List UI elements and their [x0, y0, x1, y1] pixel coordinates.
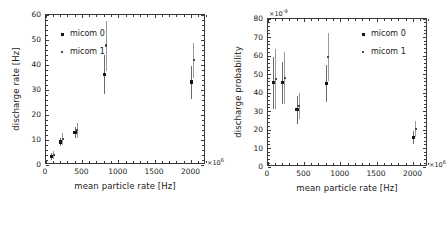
ytick-minor	[268, 41, 270, 42]
ytick-minor	[424, 126, 426, 127]
ytick-minor	[424, 141, 426, 142]
ytick-minor	[202, 135, 204, 136]
ytick-major	[423, 111, 426, 112]
ytick-minor	[202, 105, 204, 106]
ytick-major	[268, 148, 271, 149]
ytick-label: 20	[19, 110, 41, 119]
ytick-minor	[268, 159, 270, 160]
ytick-minor	[46, 30, 48, 31]
x-axis-label: mean particle rate [Hz]	[296, 183, 397, 193]
ytick-minor	[424, 122, 426, 123]
xtick-minor	[333, 163, 334, 165]
xtick-minor	[420, 163, 421, 165]
xtick-minor	[297, 19, 298, 21]
xtick-minor	[111, 15, 112, 17]
ytick-major	[201, 165, 204, 166]
ytick-minor	[46, 105, 48, 106]
xtick-minor	[46, 161, 47, 163]
xtick-minor	[398, 163, 399, 165]
ytick-minor	[202, 100, 204, 101]
ytick-minor	[46, 95, 48, 96]
ytick-minor	[268, 81, 270, 82]
xtick-label: 1500	[358, 169, 394, 178]
ytick-minor	[268, 44, 270, 45]
data-point-micom1	[415, 128, 417, 130]
ytick-label: 40	[19, 60, 41, 69]
ytick-minor	[268, 52, 270, 53]
ytick-minor	[202, 130, 204, 131]
ytick-minor	[268, 67, 270, 68]
xtick-minor	[184, 161, 185, 163]
ytick-minor	[46, 155, 48, 156]
ytick-minor	[202, 160, 204, 161]
ytick-minor	[268, 118, 270, 119]
ytick-minor	[424, 137, 426, 138]
ytick-minor	[202, 25, 204, 26]
ytick-major	[46, 40, 49, 41]
ytick-minor	[424, 118, 426, 119]
plot-area-right	[267, 18, 427, 166]
ytick-minor	[46, 125, 48, 126]
panel-discharge-probability: 010203040506070800500100015002000micom 0…	[222, 0, 443, 228]
ytick-label: 50	[241, 70, 263, 79]
ytick-minor	[268, 133, 270, 134]
ytick-major	[201, 115, 204, 116]
xtick-minor	[96, 15, 97, 17]
xtick-minor	[282, 19, 283, 21]
xtick-minor	[89, 15, 90, 17]
xtick-minor	[384, 163, 385, 165]
xtick-minor	[304, 19, 305, 21]
data-point-micom1	[62, 138, 64, 140]
ytick-minor	[202, 95, 204, 96]
xtick-minor	[198, 15, 199, 17]
xtick-minor	[406, 19, 407, 21]
ytick-minor	[202, 120, 204, 121]
ytick-major	[46, 165, 49, 166]
ytick-major	[423, 130, 426, 131]
ytick-label: 20	[241, 125, 263, 134]
xtick-minor	[184, 15, 185, 17]
xtick-minor	[340, 163, 341, 165]
ytick-minor	[424, 100, 426, 101]
ytick-minor	[202, 110, 204, 111]
xtick-minor	[297, 163, 298, 165]
ytick-minor	[46, 45, 48, 46]
xtick-minor	[75, 161, 76, 163]
xtick-minor	[206, 15, 207, 17]
ytick-label: 10	[19, 135, 41, 144]
ytick-minor	[268, 59, 270, 60]
xtick-minor	[384, 19, 385, 21]
ytick-major	[46, 65, 49, 66]
xtick-minor	[46, 15, 47, 17]
ytick-minor	[202, 50, 204, 51]
ytick-minor	[424, 133, 426, 134]
xtick-minor	[118, 161, 119, 163]
ytick-minor	[202, 20, 204, 21]
xtick-minor	[369, 19, 370, 21]
ytick-minor	[202, 55, 204, 56]
xtick-minor	[147, 161, 148, 163]
xtick-minor	[126, 15, 127, 17]
ytick-major	[268, 37, 271, 38]
xtick-label: 0	[249, 169, 285, 178]
ytick-minor	[46, 150, 48, 151]
xtick-minor	[398, 19, 399, 21]
xtick-minor	[89, 161, 90, 163]
xtick-minor	[53, 15, 54, 17]
legend-marker-icon	[61, 33, 64, 36]
ytick-minor	[46, 80, 48, 81]
x-axis-label: mean particle rate [Hz]	[74, 181, 175, 191]
ytick-minor	[424, 67, 426, 68]
ytick-major	[201, 40, 204, 41]
ytick-minor	[424, 44, 426, 45]
ytick-minor	[424, 115, 426, 116]
ytick-minor	[424, 33, 426, 34]
ytick-minor	[424, 89, 426, 90]
xtick-minor	[377, 163, 378, 165]
ytick-minor	[424, 22, 426, 23]
ytick-major	[268, 111, 271, 112]
data-point-micom1	[275, 78, 277, 80]
ytick-minor	[202, 35, 204, 36]
ytick-minor	[424, 70, 426, 71]
xtick-label: 1000	[100, 167, 136, 176]
